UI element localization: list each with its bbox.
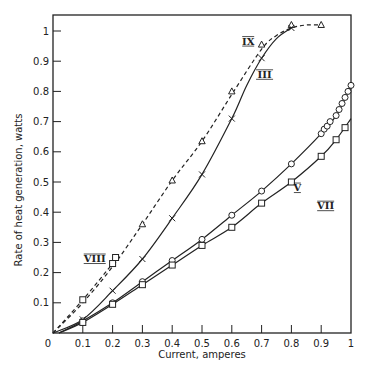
- square-marker: [259, 200, 265, 206]
- data-series: [53, 21, 354, 333]
- series-line: [59, 85, 351, 333]
- triangle-marker: [139, 221, 145, 227]
- y-tick-label: 0.8: [33, 86, 49, 97]
- square-marker: [80, 297, 86, 303]
- y-tick-label: 0.9: [33, 56, 49, 67]
- x-axis-title: Current, amperes: [158, 349, 246, 360]
- square-marker: [110, 261, 116, 267]
- x-tick-label: 0.9: [313, 338, 329, 349]
- series-labels: IXIIIVIIIVVII: [83, 36, 335, 264]
- series-line: [53, 25, 321, 333]
- circle-marker: [327, 119, 333, 125]
- circle-marker: [345, 88, 351, 94]
- y-tick-label: 1: [43, 26, 49, 37]
- series-label-ix: IX: [242, 36, 255, 47]
- series-label-viii: VIII: [83, 253, 106, 264]
- circle-marker: [339, 100, 345, 106]
- x-tick-label: 0.5: [194, 338, 210, 349]
- x-tick-label: 0.8: [283, 338, 299, 349]
- square-marker: [318, 153, 324, 159]
- y-tick-label: 0.4: [33, 207, 49, 218]
- square-marker: [199, 242, 205, 248]
- x-tick-label: 0: [45, 338, 51, 349]
- triangle-marker: [288, 21, 294, 27]
- square-marker: [333, 137, 339, 143]
- square-marker: [110, 301, 116, 307]
- chart: 00.10.20.30.40.50.60.70.80.910.10.20.30.…: [0, 0, 369, 372]
- triangle-marker: [318, 21, 324, 27]
- series-v: [59, 82, 354, 333]
- y-tick-label: 0.2: [33, 267, 49, 278]
- circle-marker: [336, 107, 342, 113]
- y-tick-label: 0.6: [33, 146, 49, 157]
- square-marker: [229, 224, 235, 230]
- circle-marker: [199, 236, 205, 242]
- circle-marker: [288, 161, 294, 167]
- y-axis-title: Rate of heat generation, watts: [13, 114, 24, 267]
- x-tick-label: 0.4: [164, 338, 180, 349]
- x-tick-label: 0.6: [224, 338, 240, 349]
- series-ix: [53, 21, 324, 333]
- x-tick-label: 0.1: [75, 338, 91, 349]
- series-label-iii: III: [258, 69, 272, 80]
- square-marker: [139, 282, 145, 288]
- series-label-v: V: [292, 182, 301, 193]
- x-tick-label: 0.7: [254, 338, 270, 349]
- triangle-marker: [258, 41, 264, 47]
- x-tick-label: 0.3: [134, 338, 150, 349]
- y-tick-label: 0.3: [33, 237, 49, 248]
- series-label-vii: VII: [316, 200, 334, 211]
- square-marker: [342, 125, 348, 131]
- circle-marker: [342, 94, 348, 100]
- square-marker: [80, 319, 86, 325]
- square-marker: [169, 262, 175, 268]
- x-tick-label: 0.2: [105, 338, 121, 349]
- y-tick-label: 0.5: [33, 177, 49, 188]
- square-marker: [113, 255, 119, 261]
- circle-marker: [259, 188, 265, 194]
- y-tick-label: 0.1: [33, 297, 49, 308]
- x-tick-label: 1: [348, 338, 354, 349]
- circle-marker: [333, 113, 339, 119]
- circle-marker: [229, 212, 235, 218]
- y-tick-label: 0.7: [33, 116, 49, 127]
- circle-marker: [348, 82, 354, 88]
